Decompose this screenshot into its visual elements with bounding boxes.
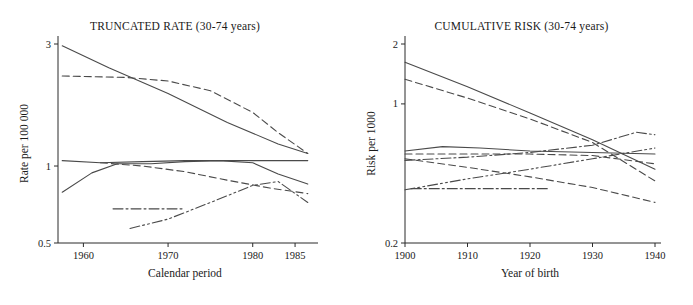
y-tick-label: 2 (393, 39, 398, 50)
x-tick-label: 1940 (645, 250, 666, 261)
y-axis-label: Risk per 1000 (365, 111, 378, 176)
y-tick-label: 1 (393, 98, 398, 109)
plot-area-left: 0.5131960197019801985Calendar periodRate… (0, 0, 350, 305)
chart-panel-truncated-rate: TRUNCATED RATE (30-74 years) 0.513196019… (0, 0, 350, 305)
data-series-line (62, 76, 308, 153)
x-axis-label: Calendar period (148, 267, 222, 280)
x-tick-label: 1900 (395, 250, 416, 261)
data-series-line (130, 181, 308, 228)
y-tick-label: 0.5 (38, 238, 51, 249)
x-tick-label: 1920 (520, 250, 541, 261)
x-tick-label: 1930 (582, 250, 603, 261)
data-series-line (405, 159, 655, 203)
figure-container: TRUNCATED RATE (30-74 years) 0.513196019… (0, 0, 693, 305)
y-tick-label: 3 (46, 39, 51, 50)
x-tick-label: 1985 (285, 250, 306, 261)
y-axis-label: Rate per 100 000 (18, 104, 31, 183)
plot-area-right: 0.21219001910192019301940Year of birthRi… (350, 0, 693, 305)
x-tick-label: 1970 (158, 250, 179, 261)
y-tick-label: 0.2 (385, 238, 398, 249)
data-series-line (62, 161, 308, 193)
data-series-line (62, 46, 308, 154)
data-series-line (405, 79, 655, 181)
data-series-line (100, 163, 307, 194)
x-axis-label: Year of birth (501, 267, 559, 279)
x-tick-label: 1980 (242, 250, 263, 261)
chart-panel-cumulative-risk: CUMULATIVE RISK (30-74 years) 0.21219001… (350, 0, 693, 305)
x-tick-label: 1910 (457, 250, 478, 261)
x-tick-label: 1960 (73, 250, 94, 261)
y-tick-label: 1 (46, 161, 51, 172)
data-series-line (405, 147, 655, 154)
